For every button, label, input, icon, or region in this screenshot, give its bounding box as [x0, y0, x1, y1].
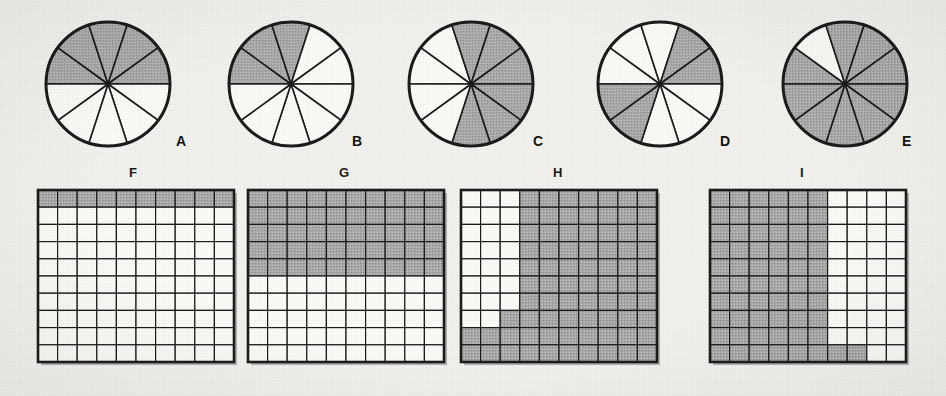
grid-cell	[116, 345, 136, 362]
grid-cell	[867, 310, 887, 327]
grid-cell	[38, 310, 58, 327]
grid-cell	[769, 293, 789, 310]
grid-cell	[598, 345, 618, 362]
grid-cell	[307, 276, 327, 293]
grid-cell	[405, 310, 425, 327]
grid-cell	[730, 345, 750, 362]
grid-cell	[77, 242, 97, 259]
grid-cell	[579, 293, 599, 310]
grid-cell	[405, 224, 425, 241]
grid-cell	[287, 259, 307, 276]
grid-cell	[520, 328, 540, 345]
grid-cell	[886, 207, 906, 224]
grid-cell	[481, 345, 501, 362]
grid-cell	[385, 242, 405, 259]
grid-cell	[730, 328, 750, 345]
grid-cell	[195, 190, 215, 207]
grid-cell	[326, 224, 346, 241]
grid-cell	[116, 190, 136, 207]
grid-cell	[116, 328, 136, 345]
grid-cell	[481, 224, 501, 241]
grid-cell	[248, 242, 268, 259]
grid-cell	[77, 207, 97, 224]
grid-cell	[730, 276, 750, 293]
grid-cell	[500, 259, 520, 276]
grid-cell	[808, 259, 828, 276]
grid-cell	[886, 310, 906, 327]
grid-cell	[58, 293, 78, 310]
grid-cell	[886, 276, 906, 293]
grid-cell	[618, 293, 638, 310]
grid-cell	[847, 259, 867, 276]
grid-cell	[97, 276, 117, 293]
grid-cell	[385, 190, 405, 207]
grid-cell	[175, 190, 195, 207]
grid-cell	[248, 259, 268, 276]
grid-cell	[481, 207, 501, 224]
grid-cell	[539, 310, 559, 327]
grid-cell	[405, 259, 425, 276]
grid-cell	[461, 207, 481, 224]
grid-cell	[749, 242, 769, 259]
grid-cell	[195, 328, 215, 345]
grid-cell	[808, 328, 828, 345]
grid-cell	[749, 190, 769, 207]
grid-cell	[326, 328, 346, 345]
grid-cell	[214, 310, 234, 327]
grid-cell	[97, 310, 117, 327]
grid-cell	[307, 190, 327, 207]
grid-cell	[461, 293, 481, 310]
grid-cell	[307, 345, 327, 362]
grid-cell	[97, 207, 117, 224]
grid-cell	[136, 242, 156, 259]
grid-cell	[116, 207, 136, 224]
grid-cell	[710, 207, 730, 224]
grid-cell	[424, 310, 444, 327]
grid-cell	[97, 242, 117, 259]
grid-cell	[618, 276, 638, 293]
grid-cell	[710, 293, 730, 310]
grid-cell	[867, 224, 887, 241]
grid-cell	[637, 310, 657, 327]
grid-cell	[116, 310, 136, 327]
grid-cell	[287, 293, 307, 310]
grid-cell	[156, 224, 176, 241]
grid-cell	[461, 224, 481, 241]
grid-cell	[424, 190, 444, 207]
grid-cell	[136, 207, 156, 224]
grid-cell	[268, 190, 288, 207]
grid-cell	[808, 224, 828, 241]
grid-cell	[58, 310, 78, 327]
grid-cell	[424, 293, 444, 310]
grid-cell	[248, 276, 268, 293]
grid-cell	[828, 328, 848, 345]
grid-cell	[808, 207, 828, 224]
grid-cell	[886, 190, 906, 207]
grid-cell	[481, 276, 501, 293]
grid-cell	[710, 328, 730, 345]
grid-cell	[847, 224, 867, 241]
grid-cell	[559, 224, 579, 241]
grid-cell	[710, 310, 730, 327]
grid-cell	[97, 345, 117, 362]
grid-cell	[175, 310, 195, 327]
grid-cell	[749, 259, 769, 276]
grid-cell	[405, 293, 425, 310]
grid-cell	[214, 345, 234, 362]
grid-cell	[97, 293, 117, 310]
grid-cell	[307, 242, 327, 259]
grid-cell	[637, 293, 657, 310]
grid-cell	[579, 259, 599, 276]
grid-cell	[461, 328, 481, 345]
figure-label-i: I	[800, 166, 804, 179]
grid-cell	[326, 293, 346, 310]
grid-cell	[579, 224, 599, 241]
grid-cell	[307, 310, 327, 327]
grid-cell	[867, 276, 887, 293]
grid-cell	[637, 259, 657, 276]
grid-cell	[38, 259, 58, 276]
grid-cell	[769, 242, 789, 259]
grid-cell	[307, 293, 327, 310]
grid-cell	[116, 259, 136, 276]
grid-cell	[481, 242, 501, 259]
